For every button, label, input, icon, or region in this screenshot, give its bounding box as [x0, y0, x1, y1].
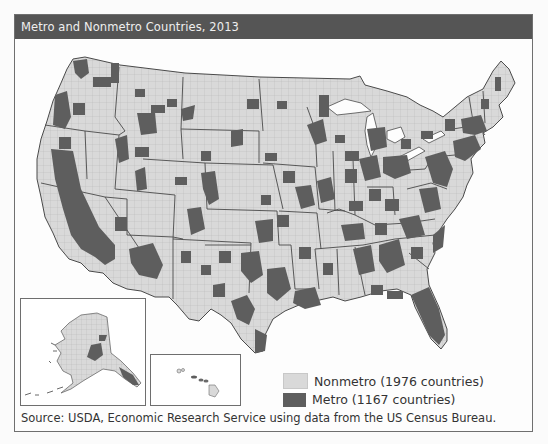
nonmetro-swatch — [283, 373, 308, 389]
figure-title: Metro and Nonmetro Countries, 2013 — [21, 20, 239, 34]
map-figure: Metro and Nonmetro Countries, 2013 — [14, 14, 533, 432]
legend-label-nonmetro: Nonmetro (1976 countries) — [314, 374, 484, 389]
hawaii-inset — [150, 354, 241, 406]
figure-header: Metro and Nonmetro Countries, 2013 — [15, 15, 532, 39]
legend-item-metro: Metro (1167 countries) — [283, 392, 455, 407]
source-note: Source: USDA, Economic Research Service … — [21, 411, 496, 425]
alaska-map — [21, 299, 145, 405]
legend-item-nonmetro: Nonmetro (1976 countries) — [283, 373, 484, 389]
alaska-inset — [20, 298, 146, 406]
legend-label-metro: Metro (1167 countries) — [312, 392, 455, 407]
hawaii-map — [151, 355, 240, 405]
metro-swatch — [283, 393, 306, 407]
